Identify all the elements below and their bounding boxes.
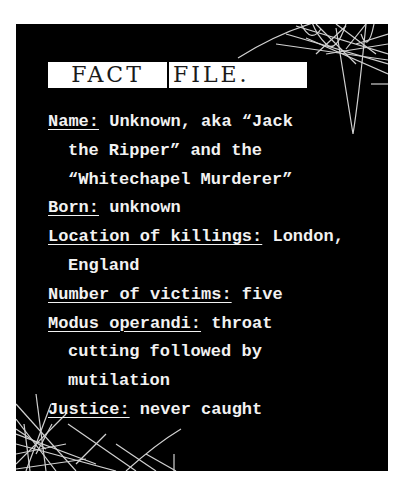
fact-value-modus-2: cutting followed by <box>68 342 262 361</box>
fact-label-modus: Modus operandi: <box>48 314 201 333</box>
fact-label-name: Name: <box>48 112 99 131</box>
fact-value-name-3: “Whitechapel Murderer” <box>68 170 292 189</box>
fact-location-cont: England <box>48 252 344 281</box>
fact-name-cont-2: “Whitechapel Murderer” <box>48 166 344 195</box>
title-box-file: FILE. <box>169 62 307 88</box>
fact-label-location: Location of killings: <box>48 227 262 246</box>
fact-victims: Number of victims: five <box>48 281 344 310</box>
fact-value-name-2: the Ripper” and the <box>68 141 262 160</box>
fact-justice: Justice: never caught <box>48 396 344 425</box>
fact-list: Name: Unknown, aka “Jack the Ripper” and… <box>48 108 344 425</box>
fact-modus-cont-2: mutilation <box>48 367 344 396</box>
title-word-fact: FACT <box>71 62 144 88</box>
fact-name: Name: Unknown, aka “Jack <box>48 108 344 137</box>
title-word-file: FILE. <box>173 62 250 88</box>
fact-modus-cont-1: cutting followed by <box>48 338 344 367</box>
fact-label-victims: Number of victims: <box>48 285 232 304</box>
fact-value-modus-3: mutilation <box>68 371 170 390</box>
fact-born: Born: unknown <box>48 194 344 223</box>
title-box-fact: FACT <box>48 62 167 88</box>
fact-modus: Modus operandi: throat <box>48 310 344 339</box>
fact-value-name: Unknown, aka “Jack <box>99 112 293 131</box>
fact-name-cont-1: the Ripper” and the <box>48 137 344 166</box>
fact-value-victims: five <box>232 285 283 304</box>
fact-value-location-2: England <box>68 256 139 275</box>
fact-value-justice: never caught <box>130 400 263 419</box>
fact-label-justice: Justice: <box>48 400 130 419</box>
fact-value-born: unknown <box>99 198 181 217</box>
fact-location: Location of killings: London, <box>48 223 344 252</box>
fact-value-location: London, <box>262 227 344 246</box>
fact-value-modus: throat <box>201 314 272 333</box>
fact-label-born: Born: <box>48 198 99 217</box>
fact-file-panel: FACT FILE. Name: Unknown, aka “Jack the … <box>16 24 388 471</box>
